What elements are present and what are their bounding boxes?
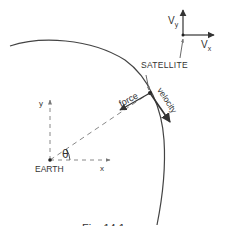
label-force: force: [117, 91, 139, 109]
figure-caption: Fig. 14.1: [82, 222, 125, 226]
inset-pointer: [180, 39, 183, 58]
label-x-axis: x: [100, 164, 104, 173]
label-vx: Vx: [201, 39, 212, 52]
label-theta: θ: [62, 147, 69, 161]
inset-origin: [182, 34, 185, 37]
label-earth: EARTH: [35, 164, 64, 174]
earth-point: [48, 158, 52, 162]
label-satellite: SATELLITE: [141, 60, 188, 70]
satellite-orbit-diagram: Vy Vx SATELLITE force velocity θ y x EAR…: [0, 0, 227, 226]
label-y-axis: y: [39, 99, 43, 108]
label-vy: Vy: [168, 15, 179, 29]
